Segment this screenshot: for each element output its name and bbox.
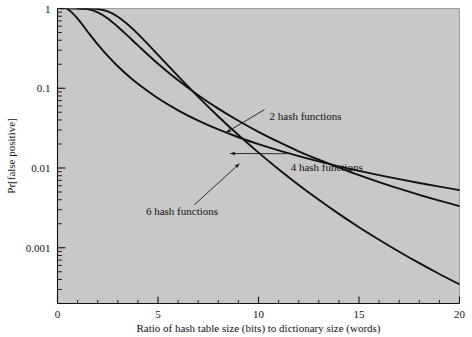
plot-area	[58, 9, 460, 304]
x-axis-title: Ratio of hash table size (bits) to dicti…	[136, 322, 380, 335]
x-tick-label: 20	[454, 308, 466, 320]
y-tick-label: 0.01	[31, 162, 50, 174]
y-tick-label: 1	[45, 3, 51, 15]
x-tick-label: 5	[155, 308, 161, 320]
annotation-label: 4 hash functions	[291, 161, 363, 173]
y-tick-label: 0.001	[26, 242, 51, 254]
y-axis-title: Pr[false positive]	[5, 118, 17, 193]
plot-background	[58, 9, 460, 304]
y-tick-label: 0.1	[37, 82, 51, 94]
x-tick-label: 0	[55, 308, 61, 320]
chart-figure: 10.10.010.00105101520 2 hash functions4 …	[0, 0, 472, 337]
false-positive-rate-line-chart: 10.10.010.00105101520 2 hash functions4 …	[0, 0, 472, 337]
annotation-label: 6 hash functions	[146, 205, 218, 217]
x-tick-label: 15	[354, 308, 366, 320]
annotation-label: 2 hash functions	[270, 110, 342, 122]
x-tick-label: 10	[253, 308, 265, 320]
